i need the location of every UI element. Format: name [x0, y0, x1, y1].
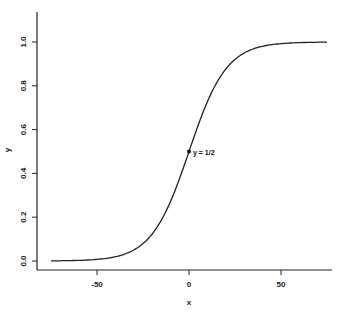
y-tick-label: 0.8 — [19, 80, 28, 92]
y-ticks: 0.00.20.40.60.81.0 — [19, 36, 37, 267]
midpoint-annotation: y = 1/2 — [193, 149, 215, 157]
y-tick-label: 0.4 — [19, 167, 28, 179]
y-tick-label: 0.2 — [19, 211, 28, 223]
x-axis-label: x — [187, 298, 192, 307]
logistic-chart: 0.00.20.40.60.81.0 -50050 y = 1/2 y x — [0, 0, 345, 318]
x-tick-label: 50 — [277, 280, 286, 289]
x-ticks: -50050 — [91, 270, 286, 289]
y-tick-label: 1.0 — [19, 36, 28, 48]
y-tick-label: 0.0 — [19, 255, 28, 267]
x-tick-label: -50 — [91, 280, 103, 289]
x-tick-label: 0 — [187, 280, 192, 289]
midpoint-marker — [187, 150, 191, 154]
y-axis-label: y — [3, 147, 12, 152]
y-tick-label: 0.6 — [19, 123, 28, 135]
